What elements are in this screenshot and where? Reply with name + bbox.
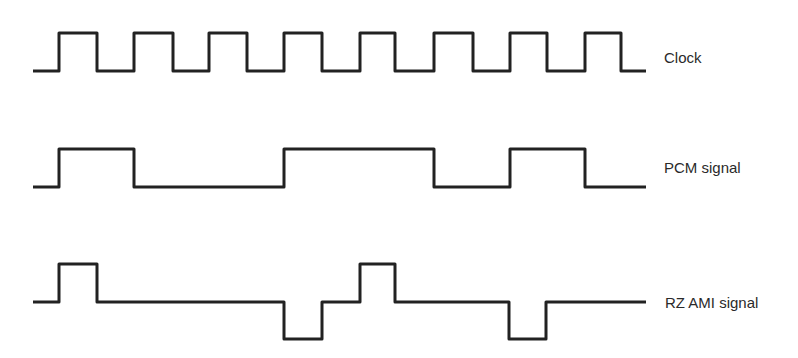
clock-label: Clock bbox=[664, 49, 702, 66]
pcm-signal-waveform bbox=[33, 149, 646, 187]
clock-waveform bbox=[33, 33, 646, 71]
signal-timing-diagram: Clock PCM signal RZ AMI signal bbox=[0, 0, 798, 358]
rz-ami-signal-waveform bbox=[33, 264, 646, 339]
pcm-signal-label: PCM signal bbox=[664, 159, 741, 176]
rz-ami-row: RZ AMI signal bbox=[33, 264, 758, 339]
clock-row: Clock bbox=[33, 33, 702, 71]
pcm-row: PCM signal bbox=[33, 149, 741, 187]
rz-ami-signal-label: RZ AMI signal bbox=[665, 294, 758, 311]
